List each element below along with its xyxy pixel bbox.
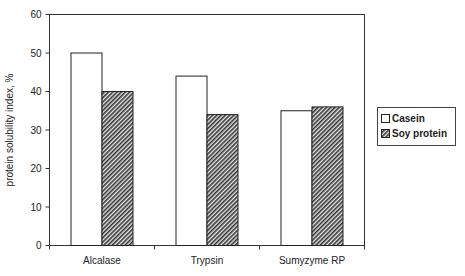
legend: Casein Soy protein xyxy=(378,108,456,146)
bar-soy-protein-alcalase xyxy=(102,92,133,246)
x-category-label: Alcalase xyxy=(83,255,121,266)
y-axis: 0102030405060 xyxy=(30,9,49,251)
y-tick-label: 40 xyxy=(30,86,42,97)
bar-soy-protein-trypsin xyxy=(207,115,238,246)
y-tick-label: 10 xyxy=(30,202,42,213)
x-axis: AlcalaseTrypsinSumyzyme RP xyxy=(50,246,365,266)
y-axis-title: protein solubility index, % xyxy=(4,73,15,186)
y-tick-label: 0 xyxy=(36,240,42,251)
y-tick-label: 50 xyxy=(30,48,42,59)
bar-soy-protein-sumyzyme-rp xyxy=(312,107,343,246)
bar-casein-trypsin xyxy=(176,76,207,245)
bar-chart: 0102030405060 AlcalaseTrypsinSumyzyme RP… xyxy=(0,0,465,276)
bar-casein-sumyzyme-rp xyxy=(281,111,312,246)
bar-casein-alcalase xyxy=(71,53,102,246)
y-tick-label: 30 xyxy=(30,125,42,136)
legend-swatch-casein xyxy=(382,115,390,123)
bars xyxy=(71,53,343,246)
x-category-label: Sumyzyme RP xyxy=(279,255,345,266)
legend-label-soy-protein: Soy protein xyxy=(392,128,447,139)
legend-label-casein: Casein xyxy=(392,113,425,124)
legend-swatch-soy-protein xyxy=(382,130,390,138)
y-tick-label: 20 xyxy=(30,163,42,174)
y-tick-label: 60 xyxy=(30,9,42,20)
x-category-label: Trypsin xyxy=(191,255,223,266)
